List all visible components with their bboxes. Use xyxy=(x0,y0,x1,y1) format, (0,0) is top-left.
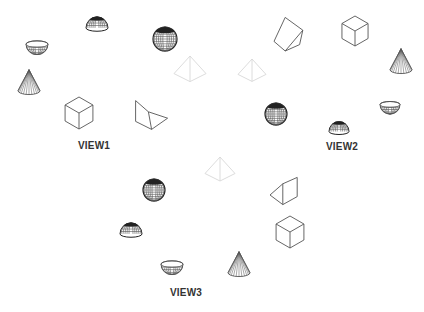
view3-bowl-icon xyxy=(161,261,183,275)
view2-sphere-icon xyxy=(265,103,287,125)
view1-sphere-icon xyxy=(153,27,177,51)
view3-label: VIEW3 xyxy=(170,287,202,298)
view1-wedge-icon xyxy=(136,101,168,130)
view1-pyramid-icon xyxy=(174,56,206,82)
view2-cone-icon xyxy=(390,49,412,74)
view1-hemisphere-icon xyxy=(86,17,108,32)
view1-cube-icon xyxy=(65,97,93,129)
view3-sphere-icon xyxy=(143,179,165,201)
view2-wedge-icon xyxy=(274,17,303,51)
view1-label: VIEW1 xyxy=(78,140,110,151)
view1-cone-icon xyxy=(18,70,40,95)
scene-svg xyxy=(0,0,424,312)
view2-label: VIEW2 xyxy=(326,141,358,152)
diagram-canvas: VIEW1 VIEW2 VIEW3 xyxy=(0,0,424,312)
view1-bowl-icon xyxy=(26,41,48,55)
view2-pyramid-icon xyxy=(238,59,266,81)
view2-bowl-icon xyxy=(380,102,400,115)
view2-cube-icon xyxy=(342,16,368,46)
view3-cube-icon xyxy=(276,216,304,248)
view3-pyramid-icon xyxy=(205,157,235,181)
view2-hemisphere-icon xyxy=(329,121,349,134)
view3-wedge-icon xyxy=(270,177,297,204)
view3-cone-icon xyxy=(228,252,250,277)
view3-hemisphere-icon xyxy=(120,223,142,238)
